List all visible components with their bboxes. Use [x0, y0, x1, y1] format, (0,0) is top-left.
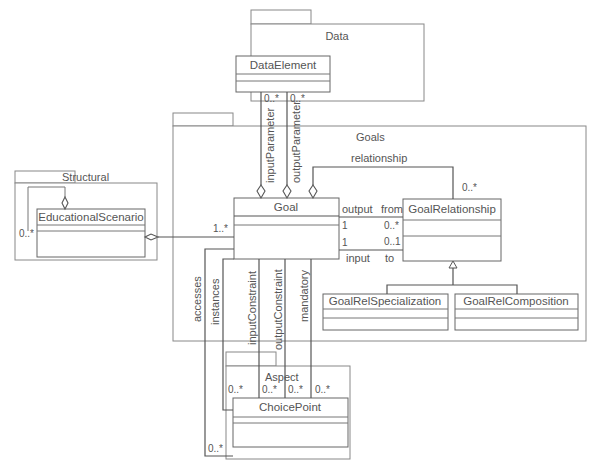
- class-choice-point-name: ChoicePoint: [259, 401, 322, 413]
- role-label: relationship: [351, 152, 407, 164]
- mult-label: 0..*: [384, 220, 399, 231]
- class-goal-relationship[interactable]: GoalRelationship: [403, 199, 501, 261]
- mult-label: 0..*: [228, 384, 243, 395]
- role-label: outputParameter: [290, 101, 302, 183]
- mult-label: 1..*: [213, 223, 228, 234]
- role-label: inputConstraint: [246, 271, 258, 345]
- role-label: mandatory: [298, 270, 310, 322]
- uml-class-diagram: Data DataElement Goals Structural Educat…: [0, 0, 594, 470]
- mult-label: 0..*: [462, 182, 477, 193]
- package-aspect-label: Aspect: [265, 371, 299, 383]
- package-structural-label: Structural: [62, 171, 109, 183]
- mult-label: 1: [342, 237, 348, 248]
- mult-label: 0..*: [19, 228, 34, 239]
- class-goal-rel-composition-name: GoalRelComposition: [463, 295, 568, 307]
- class-data-element[interactable]: DataElement: [236, 56, 330, 92]
- package-goals-label: Goals: [356, 131, 385, 143]
- role-label: inputParameter: [264, 107, 276, 183]
- class-goal-rel-specialization[interactable]: GoalRelSpecialization: [323, 294, 448, 330]
- class-choice-point[interactable]: ChoicePoint: [233, 398, 348, 447]
- role-label: output: [342, 203, 373, 215]
- mult-label: 0..1: [384, 236, 401, 247]
- mult-label: 1: [342, 220, 348, 231]
- role-label: input: [346, 252, 370, 264]
- class-educational-scenario-name: EducationalScenario: [38, 211, 144, 223]
- mult-label: 0..*: [288, 384, 303, 395]
- class-goal-rel-specialization-name: GoalRelSpecialization: [329, 295, 442, 307]
- class-goal[interactable]: Goal: [234, 198, 339, 259]
- role-label: instances: [209, 278, 221, 325]
- mult-label: 0..*: [262, 384, 277, 395]
- mult-label: 0..*: [315, 384, 330, 395]
- class-goal-rel-composition[interactable]: GoalRelComposition: [455, 294, 578, 330]
- role-label: from: [381, 203, 403, 215]
- role-label: accesses: [191, 276, 203, 322]
- mult-label: 0..*: [208, 443, 223, 454]
- mult-label: 0..*: [264, 93, 279, 104]
- class-educational-scenario[interactable]: EducationalScenario: [37, 209, 145, 257]
- class-goal-name: Goal: [274, 201, 298, 213]
- role-label: to: [385, 252, 394, 264]
- package-data-label: Data: [325, 30, 349, 42]
- class-goal-relationship-name: GoalRelationship: [408, 203, 496, 215]
- class-data-element-name: DataElement: [250, 59, 317, 71]
- role-label: outputConstraint: [272, 269, 284, 350]
